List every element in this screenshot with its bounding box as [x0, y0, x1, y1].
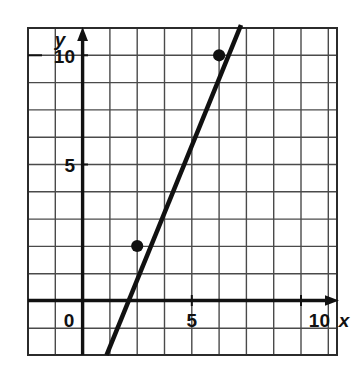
- origin-label: 0: [64, 310, 75, 331]
- data-point-5-10: [213, 49, 225, 61]
- x-tick-label-5: 5: [187, 310, 198, 331]
- x-tick-label-10: 10: [309, 310, 330, 331]
- graph-figure: y 10 5 0 5 10 x: [0, 0, 364, 380]
- y-tick-label-10: 10: [54, 46, 75, 67]
- x-axis-label: x: [338, 310, 351, 331]
- data-point-2-2: [131, 240, 143, 252]
- coordinate-graph: y 10 5 0 5 10 x: [0, 0, 364, 380]
- y-tick-label-5: 5: [64, 155, 75, 176]
